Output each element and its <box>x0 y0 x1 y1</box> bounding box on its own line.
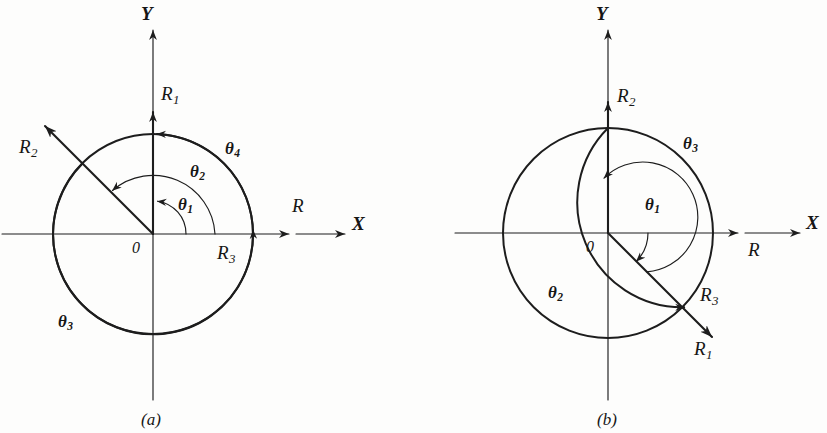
diagram-canvas: arrow at R3 --> <box>0 0 827 433</box>
arc-theta2-a <box>113 175 216 234</box>
vector-label-r1-a-base: R <box>161 83 173 104</box>
vector-diagram-figure: arrow at R3 --> Y X 0 R R1 R2 R3 θ1 θ2 θ… <box>0 0 827 433</box>
angle-label-theta1-a: θ1 <box>178 196 193 216</box>
vector-label-r2-a-base: R <box>19 136 31 157</box>
angle-label-theta4-a: θ4 <box>225 140 240 160</box>
angle-label-theta3-b-base: θ <box>683 134 692 153</box>
vector-r1-b <box>608 233 712 337</box>
angle-label-theta4-a-base: θ <box>225 139 234 158</box>
vector-label-r2-a-sub: 2 <box>31 145 38 160</box>
vector-label-r3-b: R3 <box>700 285 719 308</box>
resultant-label-a: R <box>292 196 304 215</box>
angle-label-theta3-a-base: θ <box>58 312 67 331</box>
angle-label-theta3-b-sub: 3 <box>692 142 698 155</box>
vector-label-r3-b-sub: 3 <box>712 293 719 308</box>
angle-label-theta3-a-sub: 3 <box>67 320 73 333</box>
vector-label-r1-a-sub: 1 <box>173 92 180 107</box>
angle-label-theta2-b: θ2 <box>548 284 563 304</box>
angle-label-theta2-a: θ2 <box>190 163 205 183</box>
caption-a: (a) <box>141 411 161 428</box>
vector-label-r2-a: R2 <box>19 137 38 160</box>
x-axis-label-b: X <box>806 213 819 232</box>
vector-label-r2-b-sub: 2 <box>629 94 636 109</box>
origin-label-b: 0 <box>586 239 594 255</box>
origin-label-a: 0 <box>132 240 140 256</box>
angle-label-theta1-b-sub: 1 <box>654 203 660 216</box>
vector-label-r1-b-base: R <box>694 338 706 359</box>
angle-label-theta3-a: θ3 <box>58 313 73 333</box>
angle-label-theta2-b-sub: 2 <box>557 291 563 304</box>
x-axis-label-a: X <box>352 214 365 233</box>
caption-b: (b) <box>597 411 617 428</box>
arc-theta1-b <box>636 233 648 261</box>
vector-label-r3-a-sub: 3 <box>229 251 236 266</box>
angle-label-theta1-a-sub: 1 <box>187 203 193 216</box>
angle-label-theta1-b: θ1 <box>645 196 660 216</box>
angle-label-theta3-b: θ3 <box>683 135 698 155</box>
vector-r2-a <box>45 126 153 234</box>
y-axis-label-b: Y <box>596 4 608 23</box>
vector-label-r1-b-sub: 1 <box>706 347 713 362</box>
arc-theta3-b <box>577 128 684 307</box>
angle-label-theta1-b-base: θ <box>645 195 654 214</box>
vector-label-r3-a-base: R <box>217 242 229 263</box>
vector-label-r2-b: R2 <box>617 86 636 109</box>
angle-label-theta2-b-base: θ <box>548 283 557 302</box>
resultant-label-b: R <box>748 240 760 259</box>
angle-label-theta2-a-base: θ <box>190 162 199 181</box>
vector-label-r1-a: R1 <box>161 84 180 107</box>
y-axis-label-a: Y <box>141 4 153 23</box>
angle-label-theta4-a-sub: 4 <box>234 147 240 160</box>
arc-theta2-b <box>604 162 698 272</box>
angle-label-theta2-a-sub: 2 <box>199 170 205 183</box>
vector-label-r3-b-base: R <box>700 284 712 305</box>
vector-label-r3-a: R3 <box>217 243 236 266</box>
vector-label-r1-b: R1 <box>694 339 713 362</box>
angle-label-theta1-a-base: θ <box>178 195 187 214</box>
vector-label-r2-b-base: R <box>617 85 629 106</box>
